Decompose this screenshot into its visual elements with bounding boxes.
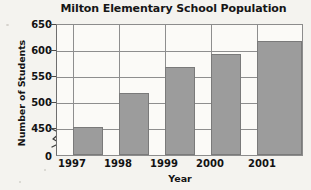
y-tick-label-650: 650 bbox=[18, 19, 52, 30]
x-tick-label-1997: 1997 bbox=[49, 158, 95, 169]
x-tick-label-1998: 1998 bbox=[95, 158, 141, 169]
bar-1997[interactable] bbox=[73, 127, 103, 155]
bar-2001[interactable] bbox=[257, 41, 302, 155]
bar-chart-figure: Milton Elementary School Population Numb… bbox=[0, 0, 311, 190]
x-tick-label-2001: 2001 bbox=[239, 158, 285, 169]
y-tick-label-450: 450 bbox=[18, 123, 52, 134]
x-tick-label-2000: 2000 bbox=[187, 158, 233, 169]
y-tick-label-500: 500 bbox=[18, 97, 52, 108]
bar-1999[interactable] bbox=[165, 67, 195, 155]
chart-title: Milton Elementary School Population bbox=[46, 2, 301, 15]
y-tick-label-550: 550 bbox=[18, 71, 52, 82]
scan-speck bbox=[6, 24, 9, 26]
y-tick-label-600: 600 bbox=[18, 45, 52, 56]
y-axis-tick-labels: 650 600 550 500 450 0 bbox=[12, 0, 52, 190]
plot-area bbox=[56, 24, 303, 156]
y-tick-label-0: 0 bbox=[18, 151, 52, 162]
scan-speck bbox=[44, 169, 46, 171]
x-axis-title: Year bbox=[55, 173, 305, 184]
bar-1998[interactable] bbox=[119, 93, 149, 155]
scan-speck bbox=[19, 181, 21, 183]
x-tick-label-1999: 1999 bbox=[141, 158, 187, 169]
bar-2000[interactable] bbox=[211, 54, 241, 155]
